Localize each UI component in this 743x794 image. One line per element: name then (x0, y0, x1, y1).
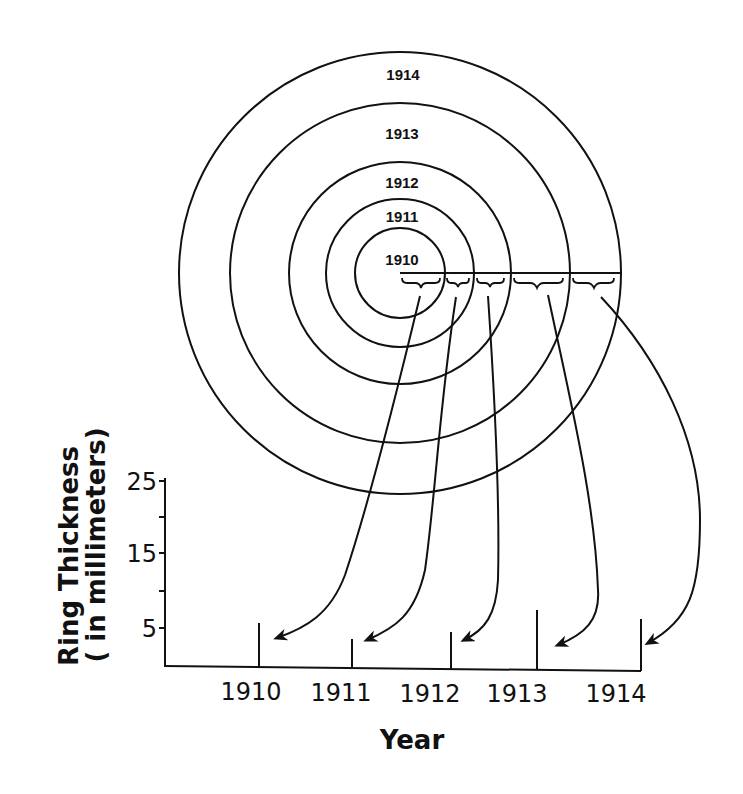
ring-label-1912: 1912 (385, 174, 418, 191)
ring-label-1914: 1914 (386, 66, 420, 83)
bars (259, 610, 641, 671)
x-axis-title: Year (379, 725, 445, 755)
x-label-1911: 1911 (310, 679, 371, 707)
y-label-15: 15 (126, 540, 157, 568)
arrow-1913 (548, 295, 598, 645)
brace-1911 (447, 278, 469, 287)
ring-label-1910: 1910 (385, 251, 418, 268)
brace-1914 (573, 278, 614, 288)
mapping-arrows (277, 295, 700, 645)
brace-1913 (514, 278, 563, 288)
y-axis-subtitle: ( in millimeters) (81, 427, 111, 662)
arrow-1911 (367, 297, 456, 640)
x-label-1914: 1914 (585, 680, 646, 708)
ring-labels: 1914 1913 1912 1911 1910 (385, 66, 420, 268)
y-axis-title: Ring Thickness (54, 446, 84, 666)
brace-1912 (477, 278, 504, 287)
x-axis (164, 666, 641, 671)
tree-ring-diagram: 1914 1913 1912 1911 1910 (0, 0, 743, 794)
x-label-1913: 1913 (486, 680, 547, 708)
graph-axes (159, 478, 641, 671)
brace-1910 (402, 278, 440, 288)
y-tick-labels: 25 15 5 (126, 468, 157, 643)
x-label-1912: 1912 (399, 680, 460, 708)
y-label-5: 5 (142, 615, 157, 643)
ring-width-braces (402, 278, 614, 288)
x-tick-labels: 1910 1911 1912 1913 1914 (220, 678, 646, 708)
ring-label-1913: 1913 (385, 125, 418, 142)
y-label-25: 25 (126, 468, 157, 496)
ring-label-1911: 1911 (386, 208, 419, 225)
arrow-1914 (601, 297, 700, 643)
x-label-1910: 1910 (220, 678, 281, 706)
